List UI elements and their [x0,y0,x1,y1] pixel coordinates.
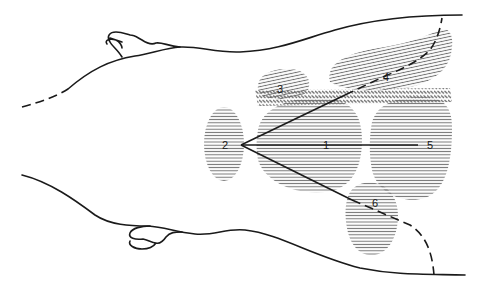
region-5 [370,97,452,200]
region-4 [329,29,452,90]
label-1: 1 [323,139,329,151]
label-2: 2 [222,139,228,151]
lower-hoof [130,226,182,249]
anatomical-diagram: 1 2 3 4 5 6 [0,0,482,290]
label-3: 3 [277,83,283,95]
region-6 [346,183,399,256]
label-5: 5 [427,139,433,151]
upper-hoof [106,32,180,57]
upper-dashed-edge [22,89,68,107]
label-6: 6 [372,197,378,209]
label-4: 4 [383,71,389,83]
